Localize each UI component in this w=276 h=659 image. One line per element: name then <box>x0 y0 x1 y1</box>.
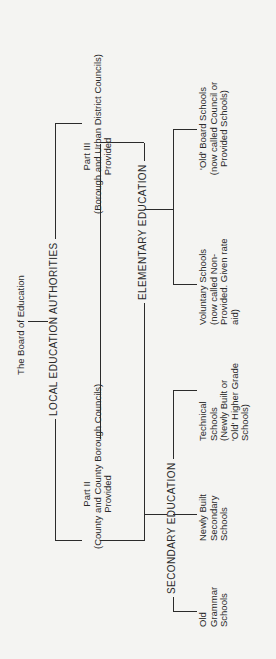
education-hierarchy-diagram: The Board of Education LOCAL EDUCATION A… <box>0 0 276 659</box>
part-ii-provided: Provided <box>103 439 114 549</box>
connector-old-board <box>173 129 197 130</box>
connector-elementary-children <box>144 209 173 210</box>
connector-technical <box>173 390 197 391</box>
connector-root <box>28 321 48 322</box>
connector-old-grammar <box>173 611 197 612</box>
secondary-education-label: SECONDARY EDUCATION <box>167 459 178 597</box>
connector-newly-built <box>173 514 197 515</box>
newly-built-line-1: Newly Built <box>198 494 209 541</box>
old-grammar-line-3: Schools <box>219 587 230 627</box>
part-ii-block: Part II (County and County Borough Counc… <box>82 439 114 549</box>
old-board-line-3: Provided Schools) <box>219 66 230 191</box>
old-board-line-1: 'Old' Board Schools <box>198 66 209 191</box>
part-iii-block: Part III (Borough and Urban District Cou… <box>82 99 114 214</box>
technical-line-5: Schools) <box>240 363 251 441</box>
old-grammar-schools-label: Old Grammar Schools <box>198 587 230 627</box>
technical-line-1: Technical <box>198 363 209 441</box>
local-education-authorities-label: LOCAL EDUCATION AUTHORITIES <box>49 239 60 419</box>
elementary-education-label: ELEMENTARY EDUCATION <box>138 161 149 303</box>
voluntary-schools-label: Voluntary Schools (now called Non- Provi… <box>198 238 240 325</box>
old-grammar-line-1: Old <box>198 587 209 627</box>
part-ii-title: Part II <box>82 439 93 549</box>
voluntary-line-1: Voluntary Schools <box>198 238 209 325</box>
board-of-education-label: The Board of Education <box>16 270 27 380</box>
elementary-children-line <box>173 130 174 285</box>
newly-built-secondary-label: Newly Built Secondary Schools <box>198 494 230 541</box>
connector-part-iii-elementary <box>100 142 144 143</box>
part-iii-provided: Provided <box>103 99 114 214</box>
newly-built-line-3: Schools <box>219 494 230 541</box>
connector-part-ii-education <box>100 540 144 541</box>
technical-line-3: (Newly Built or <box>219 363 230 441</box>
old-board-schools-label: 'Old' Board Schools (now called Council … <box>198 66 230 191</box>
connector-voluntary <box>173 284 197 285</box>
part-iii-title: Part III <box>82 99 93 214</box>
technical-schools-label: Technical Schools (Newly Built or 'Old' … <box>198 363 251 441</box>
voluntary-line-3: Provided. Given rate <box>219 238 230 325</box>
voluntary-line-4: aid) <box>230 238 241 325</box>
